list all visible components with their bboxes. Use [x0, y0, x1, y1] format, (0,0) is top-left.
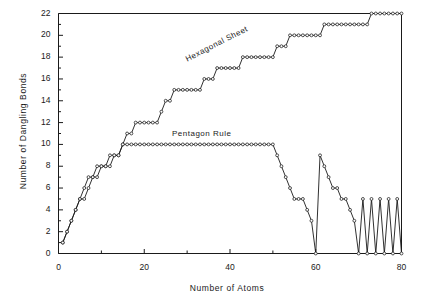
x-axis-title: Number of Atoms — [147, 283, 307, 293]
y-tick-label: 20 — [29, 29, 51, 39]
x-tick-label: 40 — [217, 262, 243, 272]
y-tick-label: 6 — [29, 182, 51, 192]
y-tick-label: 10 — [29, 138, 51, 148]
series-annotation-pentagon-rule: Pentagon Rule — [172, 129, 231, 138]
chart-figure: Number of Dangling Bonds Number of Atoms… — [0, 0, 422, 303]
x-tick-label: 0 — [46, 262, 72, 272]
y-tick-label: 16 — [29, 73, 51, 83]
y-tick-label: 4 — [29, 204, 51, 214]
x-tick-label: 20 — [131, 262, 157, 272]
y-tick-label: 0 — [29, 248, 51, 258]
y-tick-label: 2 — [29, 226, 51, 236]
x-tick-label: 80 — [389, 262, 415, 272]
y-axis-title: Number of Dangling Bonds — [18, 61, 28, 201]
y-tick-label: 18 — [29, 51, 51, 61]
series-line-pentagon-rule — [63, 144, 402, 253]
y-tick-label: 8 — [29, 160, 51, 170]
x-tick-label: 60 — [303, 262, 329, 272]
y-tick-label: 14 — [29, 95, 51, 105]
y-tick-label: 22 — [29, 8, 51, 18]
data-series-group — [61, 12, 403, 255]
y-tick-label: 12 — [29, 117, 51, 127]
